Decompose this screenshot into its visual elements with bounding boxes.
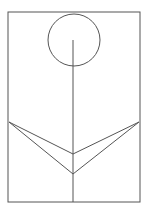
flower-diagram [0, 0, 148, 211]
left-leaf-upper-line [9, 122, 73, 154]
left-leaf-lower-line [9, 122, 73, 174]
right-leaf-lower-line [73, 122, 139, 174]
flower-head-circle [48, 14, 100, 66]
right-leaf-upper-line [73, 122, 139, 154]
